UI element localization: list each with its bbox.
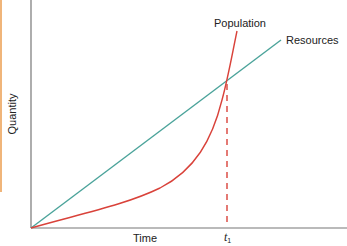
t1-label-sub: 1 <box>227 237 231 244</box>
t1-tick-label: t1 <box>224 230 231 244</box>
chart: Quantity Time Population Resources t1 <box>0 0 347 246</box>
resources-label: Resources <box>286 34 339 46</box>
population-curve <box>31 31 237 228</box>
y-axis-label: Quantity <box>6 93 18 134</box>
x-axis-label: Time <box>133 232 157 244</box>
resources-line <box>31 40 281 228</box>
population-label: Population <box>214 17 266 29</box>
